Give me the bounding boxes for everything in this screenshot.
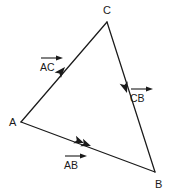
vertex-label-a: A [9,116,17,128]
edge-a-to-c [21,22,107,122]
vector-cb-overbar-arrowhead [146,86,153,91]
diagram-canvas: A C B AC CB AB [0,0,171,193]
vertex-label-c: C [103,4,111,16]
vector-label-cb: CB [130,92,145,104]
vector-label-ab: AB [64,159,78,171]
vector-label-ac: AC [40,61,55,73]
vector-ac-overbar-arrowhead [56,55,63,60]
vector-ab-overbar-arrowhead [80,153,87,158]
arrowhead-ac-glyph [55,64,69,78]
edge-a-to-b [21,122,155,172]
vector-triangle-diagram: A C B AC CB AB [0,0,171,193]
vector-annotation-ab: AB [64,153,87,171]
vertex-label-b: B [155,178,162,190]
vector-annotation-cb: CB [130,86,153,104]
edge-arrowhead-ac [55,64,69,78]
